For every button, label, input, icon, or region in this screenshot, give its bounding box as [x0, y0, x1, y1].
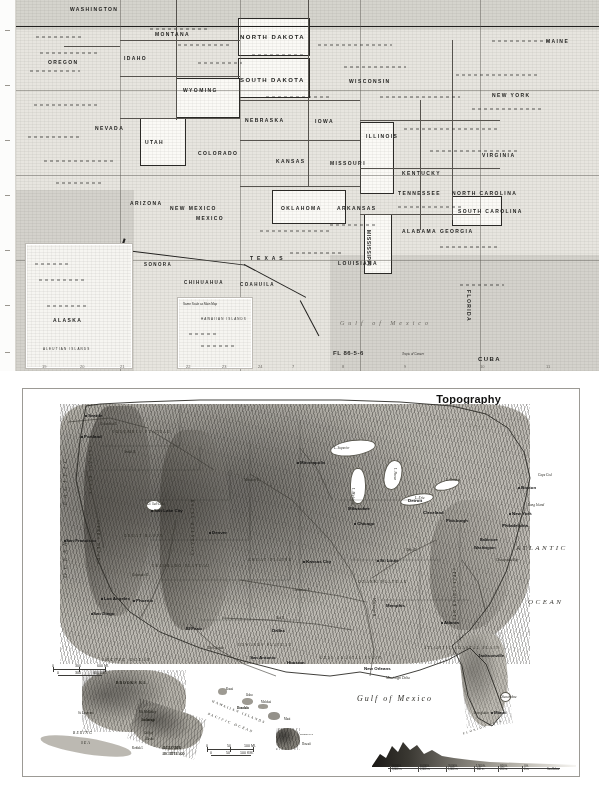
alaska-label-st-lawrence: St. Lawrence: [78, 711, 94, 715]
river-label-l-huron: L. Huron: [393, 468, 397, 480]
phys-label-okeechobee: Okeechobee: [500, 695, 517, 699]
state-label-sonora: SONORA: [144, 262, 172, 267]
elev-step-600: 600 ft. 200 m.: [498, 766, 508, 772]
city-label-cleveland: Cleveland: [423, 510, 444, 515]
city-label-san-francisco: San Francisco: [66, 538, 96, 543]
grid-num-22: 22: [186, 364, 190, 369]
river-label-l-ontario: L. Ontario: [446, 478, 460, 482]
alaska-scale-mi-300: 300: [75, 664, 81, 668]
alaska-scale-mi-600: 600 MI.: [97, 664, 109, 668]
state-label-south-carolina: SOUTH CAROLINA: [458, 208, 523, 214]
state-label-south-dakota: SOUTH DAKOTA: [240, 77, 305, 83]
state-label-mississippi: MISSISSIPPI: [366, 230, 372, 266]
hawaii-label-kauai: Kauai: [226, 687, 233, 691]
city-label-new-orleans: New Orleans: [364, 666, 391, 671]
state-label-florida: FLORIDA: [466, 290, 472, 322]
city-label-san-antonio: San Antonio: [250, 655, 276, 660]
atlas-page: WASHINGTON OREGON MONTANA NORTH DAKOTA S…: [0, 0, 599, 788]
city-label-pittsburgh: Pittsburgh: [446, 518, 468, 523]
alaska-inset-label: ALASKA: [53, 317, 82, 323]
alaska-label-alaska: Alaska: [145, 737, 154, 741]
hawaii-inset-topography: HAWAIIAN ISLANDS PACIFIC OCEAN Kauai Oah…: [200, 676, 330, 772]
phys-label-cape-cod: Cape Cod: [538, 473, 552, 477]
alaska-label-anchorage: Anchorage: [141, 718, 155, 722]
elev-step-0-m: 0 m.: [524, 768, 529, 771]
maui-relief: [268, 712, 280, 720]
city-label-chicago: Chicago: [357, 521, 374, 526]
phys-label-rocky-mountains: ROCKY MOUNTAINS: [190, 500, 194, 557]
city-label-minneapolis: Minneapolis: [300, 460, 325, 465]
state-label-kentucky: KENTUCKY: [402, 170, 441, 176]
state-label-mexico: MEXICO: [196, 215, 224, 221]
elevation-legend: 9,000 ft. 3,000 m. 6,000 ft. 2,000 m. 3,…: [370, 738, 580, 774]
phys-label-long-island: Long Island: [528, 503, 544, 507]
ocean-label-pacific: PACIFIC: [62, 455, 68, 505]
grid-num-9: 9: [404, 364, 406, 369]
state-label-iowa: IOWA: [315, 118, 334, 124]
alaska-label-arctic-ocean: ARCTIC OCEAN: [102, 657, 152, 662]
phys-label-edwards-plateau: EDWARDS PLATEAU: [238, 643, 292, 647]
alaska-label-gulf-of: Gulf of: [144, 731, 153, 735]
phys-label-ozark-plateau: OZARK PLATEAU: [358, 580, 408, 584]
grid-num-20: 20: [80, 364, 84, 369]
elev-step-6000-m: 2,000 m.: [420, 768, 430, 771]
graticule-lat-2: [14, 175, 599, 176]
alaska-label-sea: SEA: [81, 741, 91, 745]
city-label-los-angeles: Los Angeles: [104, 596, 130, 601]
alaska-label-mt-mckinley: Mt. McKinley: [139, 710, 156, 714]
state-label-virginia: VIRGINIA: [482, 152, 515, 158]
city-label-boston: Boston: [521, 485, 536, 490]
alaska-scale-km-0: 0: [57, 671, 59, 675]
city-label-salt-lake-city: Salt Lake City: [154, 508, 183, 513]
elev-step-1500: 1,500 ft. 500 m.: [474, 766, 485, 772]
elev-step-below: Below: [552, 768, 559, 771]
hawaiian-islands-label: HAWAIIAN ISLANDS: [201, 317, 247, 321]
hawaii-label-maui: Maui: [284, 717, 290, 721]
plate-number: FL 86-5-6: [333, 350, 364, 356]
alaska-label-kodiak: Kodiak I.: [132, 746, 143, 750]
hawaii-scale-mi-0: 0: [206, 744, 208, 748]
elev-step-sea: Sea: [547, 768, 552, 771]
river-label-red: Red R.: [276, 616, 285, 620]
hawaii-inset-top: Same Scale as Main Map HAWAIIAN ISLANDS: [178, 298, 252, 368]
grid-num-11: 11: [546, 364, 550, 369]
hawaii-inset-note: Same Scale as Main Map: [183, 302, 217, 306]
hawaii-label-molokai: Molokai: [261, 700, 271, 704]
grid-num-24: 24: [258, 364, 262, 369]
top-map-left-margin: [0, 0, 16, 371]
hawaii-scale-km-50: 50: [226, 751, 230, 755]
hawaii-scale-bar: 0 50 100 MI. 0 50 100 KM.: [206, 744, 256, 758]
canada-border: [14, 26, 599, 27]
grid-num-7: 7: [292, 364, 294, 369]
graticule-lon-3: [360, 0, 361, 371]
phys-label-gulf-coastal-plain: GULF COASTAL PLAIN: [320, 656, 382, 660]
river-label-gt-salt-lake: Gt. Salt Lake: [147, 502, 165, 506]
grid-num-21: 21: [120, 364, 124, 369]
united-states-reference-map: WASHINGTON OREGON MONTANA NORTH DAKOTA S…: [0, 0, 599, 371]
phys-label-great-plains: GREAT PLAINS: [248, 558, 292, 562]
gulf-of-mexico-label: Gulf of Mexico: [340, 320, 432, 326]
phys-label-colorado-plateau: COLORADO PLATEAU: [152, 564, 210, 568]
state-label-louisiana: LOUISIANA: [338, 260, 378, 266]
state-label-nevada: NEVADA: [95, 125, 124, 131]
ocean-label-gulf-of-mexico: Gulf of Mexico: [357, 694, 433, 703]
state-label-chihuahua: CHIHUAHUA: [184, 280, 224, 285]
state-label-arkansas: ARKANSAS: [337, 205, 377, 211]
aleutian-islands-label: ALEUTIAN ISLANDS: [43, 347, 91, 351]
state-label-montana: MONTANA: [155, 31, 190, 37]
grid-num-23: 23: [222, 364, 226, 369]
hawaii-label-mauna-kea: Mauna Kea: [300, 733, 313, 736]
state-label-georgia: GEORGIA: [440, 228, 473, 234]
city-label-philadelphia: Philadelphia: [502, 523, 528, 528]
aleutian-chain-relief: [39, 731, 132, 761]
state-label-north-carolina: NORTH CAROLINA: [452, 190, 517, 196]
city-label-milwaukee: Milwaukee: [348, 506, 370, 511]
state-label-texas: TEXAS: [250, 255, 287, 261]
phys-label-sierra-nevada: SIERRA NEVADA: [96, 520, 100, 566]
river-label-missouri: Missouri R.: [244, 478, 260, 482]
hawaii-scale-km-100: 100 KM.: [240, 751, 253, 755]
elev-step-3000-m: 1,000 m.: [448, 768, 458, 771]
alaska-scale-bar: 0 300 600 MI. 0 300 600 KM.: [52, 664, 108, 678]
state-label-wyoming: WYOMING: [183, 87, 218, 93]
phys-label-great-basin: GREAT BASIN: [124, 534, 163, 538]
